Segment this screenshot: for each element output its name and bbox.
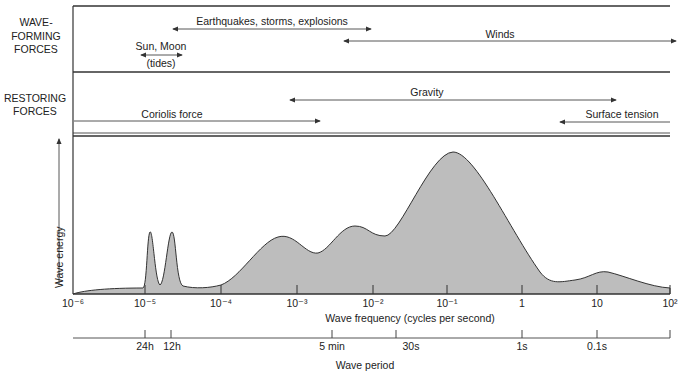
svg-text:Gravity: Gravity [410,86,444,98]
earthquakes-arrow: Earthquakes, storms, explosions [173,15,371,29]
svg-text:Coriolis force: Coriolis force [141,108,202,120]
gravity-arrow: Gravity [290,86,616,100]
tick-1: 1 [519,297,525,309]
svg-text:Winds: Winds [485,28,514,40]
svg-text:0.1s: 0.1s [587,340,607,352]
tick-10: 10 [591,297,603,309]
tick-1e-1: 10⁻¹ [436,297,458,309]
tick-1e2: 10² [662,297,678,309]
svg-text:FORMING: FORMING [11,30,61,42]
svg-text:Wave energy: Wave energy [53,226,65,288]
svg-text:Sun, Moon: Sun, Moon [136,40,187,52]
surface-tension-arrow: Surface tension [560,108,670,122]
wave-forming-forces-label: WAVE- FORMING FORCES [11,16,61,55]
wave-spectrum-diagram: WAVE- FORMING FORCES RESTORING FORCES Ea… [0,0,686,376]
svg-text:Earthquakes, storms, explosion: Earthquakes, storms, explosions [196,15,348,27]
svg-text:12h: 12h [163,340,181,352]
svg-text:(tides): (tides) [146,57,175,69]
svg-text:Surface tension: Surface tension [586,108,659,120]
svg-text:FORCES: FORCES [14,43,58,55]
tick-1e-4: 10⁻⁴ [210,297,232,309]
restoring-forces-label: RESTORING FORCES [4,92,66,117]
period-axis-label: Wave period [336,359,395,371]
tides-arrow: Sun, Moon (tides) [136,40,187,69]
tick-1e-2: 10⁻² [362,297,384,309]
frequency-axis-label: Wave frequency (cycles per second) [325,312,494,324]
winds-arrow: Winds [344,28,676,41]
coriolis-arrow: Coriolis force [74,108,320,121]
svg-text:30s: 30s [403,340,420,352]
svg-text:5 min: 5 min [319,340,345,352]
svg-text:24h: 24h [136,340,154,352]
svg-text:1s: 1s [516,340,527,352]
svg-text:RESTORING: RESTORING [4,92,66,104]
tick-1e-3: 10⁻³ [286,297,308,309]
svg-text:FORCES: FORCES [13,105,57,117]
tick-1e-6: 10⁻⁶ [62,297,84,309]
energy-spectrum-area [73,152,670,294]
tick-1e-5: 10⁻⁵ [134,297,156,309]
period-axis: 24h 12h 5 min 30s 1s 0.1s Wave period [73,330,670,371]
svg-text:WAVE-: WAVE- [19,16,53,28]
wave-energy-axis-label: Wave energy [53,139,65,288]
